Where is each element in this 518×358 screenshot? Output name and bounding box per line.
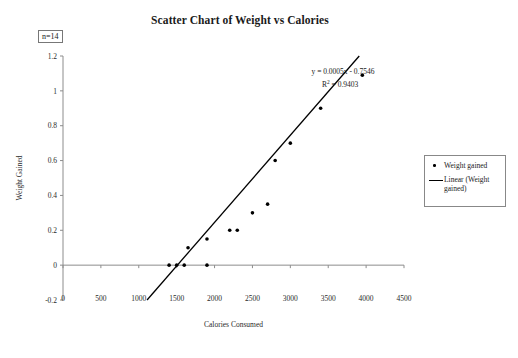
data-point bbox=[251, 211, 255, 215]
data-point bbox=[266, 202, 270, 206]
trendline bbox=[147, 56, 359, 300]
data-points bbox=[167, 73, 364, 267]
x-tick-label: 3000 bbox=[283, 294, 298, 303]
legend-dot-marker-icon bbox=[429, 161, 444, 171]
data-point bbox=[167, 263, 171, 267]
x-tick-label: 2500 bbox=[245, 294, 260, 303]
chart-legend: Weight gained Linear (Weight gained) bbox=[424, 155, 506, 207]
data-point bbox=[273, 159, 277, 163]
x-tick-label: 500 bbox=[95, 294, 107, 303]
x-tick-label: 3500 bbox=[321, 294, 336, 303]
y-tick-label: 0.4 bbox=[48, 191, 58, 200]
data-point bbox=[182, 263, 186, 267]
x-tick-label: 2000 bbox=[207, 294, 222, 303]
x-tick-label: 0 bbox=[61, 294, 65, 303]
scatter-chart: Scatter Chart of Weight vs Calories n=14… bbox=[0, 0, 518, 358]
y-axis: 1.210.80.60.40.20-0.2 bbox=[45, 52, 63, 305]
y-tick-label: 0 bbox=[53, 261, 57, 270]
y-tick-label: 1 bbox=[53, 87, 57, 96]
r-squared-annotation: R2 = 0.9403 bbox=[322, 79, 359, 89]
y-tick-label: 1.2 bbox=[48, 52, 58, 61]
y-tick-label: 0.8 bbox=[48, 121, 58, 130]
y-tick-label: 0.2 bbox=[48, 226, 58, 235]
data-point bbox=[175, 263, 179, 267]
equation-annotation: y = 0.0005x - 0.7546R2 = 0.9403 bbox=[312, 67, 375, 89]
y-tick-label: -0.2 bbox=[45, 296, 57, 305]
data-point bbox=[205, 237, 209, 241]
y-tick-label: 0.6 bbox=[48, 156, 58, 165]
legend-item-linear-trend: Linear (Weight gained) bbox=[429, 175, 501, 193]
x-tick-label: 1000 bbox=[131, 294, 146, 303]
legend-item-label: Linear (Weight gained) bbox=[444, 175, 501, 193]
legend-line-marker-icon bbox=[429, 175, 444, 185]
legend-item-label: Weight gained bbox=[444, 161, 487, 170]
data-point bbox=[235, 228, 239, 232]
x-axis-title: Calories Consumed bbox=[204, 320, 263, 329]
y-axis-title: Weight Gained bbox=[15, 155, 24, 200]
x-tick-label: 1500 bbox=[169, 294, 184, 303]
x-tick-label: 4000 bbox=[359, 294, 374, 303]
data-point bbox=[228, 228, 232, 232]
data-point bbox=[319, 106, 323, 110]
trendline-equation: y = 0.0005x - 0.7546 bbox=[312, 67, 375, 76]
data-point bbox=[205, 263, 209, 267]
data-point bbox=[289, 141, 293, 145]
data-point bbox=[186, 246, 190, 250]
legend-item-weight-gained: Weight gained bbox=[429, 161, 501, 171]
x-axis: 050010001500200025003000350040004500 bbox=[61, 265, 412, 303]
x-tick-label: 4500 bbox=[397, 294, 412, 303]
